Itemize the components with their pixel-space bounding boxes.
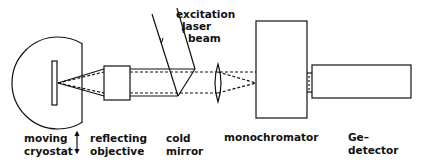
reflecting-objective-shape [104, 66, 130, 100]
beam-label-3: beam [188, 32, 221, 44]
lens-shape [215, 64, 221, 102]
monochromator-label: monochromator [224, 131, 318, 143]
objective-label-2: objective [90, 145, 144, 157]
mirror-label-1: cold [166, 132, 191, 144]
detector-label-2: detector [348, 144, 398, 156]
double-arrow-vertical-icon [75, 132, 79, 153]
beam-label-1: excitation [176, 8, 235, 20]
beam-label-2: laser [182, 20, 211, 32]
optical-setup-diagram: excitation laser beam moving cryostat re… [0, 0, 425, 164]
monochromator-shape [256, 21, 307, 118]
objective-label-1: reflecting [90, 132, 147, 144]
detector-label-1: Ge– [348, 131, 369, 143]
detector-connector [307, 73, 312, 92]
collection-cone [58, 69, 104, 96]
ge-detector-shape [312, 65, 411, 98]
cryostat-label-1: moving [24, 132, 68, 144]
cryostat-label-2: cryostat [24, 145, 73, 157]
mirror-label-2: mirror [166, 145, 203, 157]
